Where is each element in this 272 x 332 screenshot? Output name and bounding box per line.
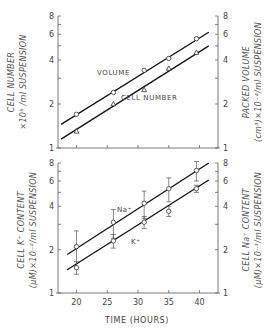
circle-marker	[142, 220, 146, 224]
bottom-left-axis-title-1: CELL K⁺ CONTENT	[17, 191, 26, 269]
circle-marker	[111, 239, 115, 243]
top-left-axis-title-1: CELL NUMBER	[7, 52, 16, 112]
left-y-tick-label: 8	[49, 159, 54, 168]
left-y-tick-label: 6	[49, 177, 54, 186]
top-right-axis-title-1: PACKED VOLUME	[242, 45, 251, 118]
circle-marker	[194, 168, 198, 172]
x-tick-label: 35	[164, 298, 174, 307]
volume-annotation: VOLUME	[97, 69, 130, 77]
x-axis-title: TIME (HOURS)	[104, 316, 169, 325]
left-y-tick-label: 2	[49, 246, 54, 255]
bottom-right-axis-title-2: (µM)×10⁻³/ml SUSPENSION	[254, 172, 263, 288]
right-y-tick-label: 6	[223, 177, 228, 186]
triangle-marker	[166, 66, 171, 70]
right-y-tick-label: 6	[223, 30, 228, 39]
right-y-tick-label: 1	[223, 144, 228, 153]
right-y-tick-label: 2	[223, 246, 228, 255]
right-y-tick-label: 8	[223, 12, 228, 21]
top-left-axis-title-2: ×10⁵ /ml SUSPENSION	[19, 34, 28, 129]
left-y-tick-label: 4	[49, 56, 54, 65]
left-y-tick-label: 8	[49, 12, 54, 21]
k-annotation: K⁺	[131, 238, 141, 246]
right-y-tick-label: 8	[223, 159, 228, 168]
right-y-tick-label: 4	[223, 56, 228, 65]
circle-marker	[111, 90, 115, 94]
x-tick-label: 20	[71, 298, 81, 307]
circle-marker	[194, 187, 198, 191]
circle-marker	[167, 209, 171, 213]
left-y-tick-label: 6	[49, 30, 54, 39]
bottom-left-axis-title-2: (µM)×10⁻²/ml SUSPENSION	[29, 172, 38, 288]
circle-marker	[167, 56, 171, 60]
circle-marker	[142, 201, 146, 205]
circle-marker	[142, 68, 146, 72]
circle-marker	[111, 220, 115, 224]
na-annotation: Na⁺	[117, 206, 132, 214]
right-y-tick-label: 2	[223, 100, 228, 109]
x-tick-label: 25	[102, 298, 112, 307]
fit-line	[61, 32, 209, 124]
top-right-axis-title-2: (cm³)×10⁻⁴/ml SUSPENSION	[254, 22, 263, 142]
bottom-right-axis-title-1: CELL Na⁺ CONTENT	[242, 188, 251, 272]
right-y-tick-label: 1	[223, 289, 228, 298]
circle-marker	[74, 244, 78, 248]
triangle-marker	[111, 101, 116, 105]
left-y-tick-label: 4	[49, 202, 54, 211]
right-y-tick-label: 4	[223, 202, 228, 211]
x-tick-label: 40	[194, 298, 204, 307]
left-y-tick-label: 2	[49, 100, 54, 109]
chart-figure: 1122446688 11224466882025303540 CELL NUM…	[0, 0, 272, 332]
left-y-tick-label: 1	[49, 289, 54, 298]
fit-line	[61, 46, 209, 139]
circle-marker	[167, 187, 171, 191]
cell-number-annotation: CELL NUMBER	[121, 94, 177, 102]
circle-marker	[194, 36, 198, 40]
top-panel: 1122446688	[49, 12, 228, 153]
x-tick-label: 30	[133, 298, 143, 307]
bottom-panel: 11224466882025303540	[49, 159, 228, 307]
circle-marker	[74, 265, 78, 269]
left-y-tick-label: 1	[49, 144, 54, 153]
circle-marker	[74, 112, 78, 116]
fit-line	[67, 180, 209, 270]
